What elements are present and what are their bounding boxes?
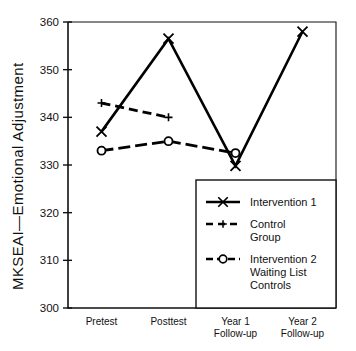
legend-label: Waiting List xyxy=(250,266,306,278)
y-tick-label: 340 xyxy=(40,111,59,123)
y-axis-title: MKSEAI—Emotional Adjustment xyxy=(9,62,26,290)
marker-plus xyxy=(98,99,106,107)
legend-label: Intervention 2 xyxy=(250,253,317,265)
x-tick-label: Year 1 xyxy=(221,316,250,327)
x-tick-label: Year 2 xyxy=(288,316,317,327)
y-tick-label: 320 xyxy=(40,207,59,219)
x-tick-label: Pretest xyxy=(86,316,118,327)
marker-circle xyxy=(165,137,173,145)
legend-label: Group xyxy=(250,231,281,243)
series-line xyxy=(102,32,303,166)
chart-legend: Intervention 1ControlGroupIntervention 2… xyxy=(196,180,336,308)
data-series-layer xyxy=(97,27,308,171)
legend-label: Controls xyxy=(250,279,291,291)
y-axis-title-text: MKSEAI—Emotional Adjustment xyxy=(9,62,26,290)
y-tick-label: 330 xyxy=(40,159,59,171)
legend-label: Control xyxy=(250,218,285,230)
data-series xyxy=(98,99,173,121)
chart-figure: MKSEAI—Emotional Adjustment 300310320330… xyxy=(0,0,356,351)
x-tick-label: Follow-up xyxy=(281,328,325,339)
marker-circle xyxy=(219,255,227,263)
marker-x xyxy=(97,127,107,137)
series-line xyxy=(102,103,169,117)
y-tick-label: 350 xyxy=(40,64,59,76)
y-tick-label: 300 xyxy=(40,302,59,314)
marker-plus xyxy=(165,113,173,121)
marker-x xyxy=(164,34,174,44)
marker-circle xyxy=(98,147,106,155)
line-chart: MKSEAI—Emotional Adjustment 300310320330… xyxy=(0,0,356,351)
y-tick-label: 310 xyxy=(40,254,59,266)
marker-x xyxy=(298,27,308,37)
y-tick-label: 360 xyxy=(40,16,59,28)
marker-x xyxy=(231,161,241,171)
x-tick-label: Posttest xyxy=(150,316,186,327)
legend-label: Intervention 1 xyxy=(250,196,317,208)
y-axis-ticks: 300310320330340350360 xyxy=(40,16,72,314)
x-axis-ticks: PretestPosttestYear 1Follow-upYear 2Foll… xyxy=(86,316,325,339)
data-series xyxy=(97,27,308,171)
marker-circle xyxy=(232,149,240,157)
x-tick-label: Follow-up xyxy=(214,328,258,339)
data-series xyxy=(98,137,240,157)
